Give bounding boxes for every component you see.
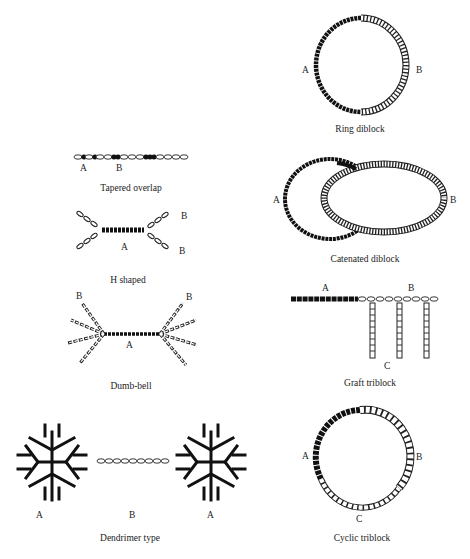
tapered-chain: [74, 155, 188, 159]
label-c: C: [356, 514, 362, 524]
dendron-a-left: [18, 425, 86, 500]
label-a: A: [302, 451, 309, 461]
label-a: A: [322, 283, 329, 293]
label-a-right: A: [207, 510, 214, 520]
label-b: B: [416, 65, 422, 75]
catenated-diblock-diagram: A B Catenated diblock: [273, 159, 456, 264]
tapered-overlap-diagram: A B Tapered overlap: [74, 155, 188, 193]
dendrimer-type-diagram: A B A Dendrimer type: [18, 425, 245, 543]
label-a: A: [126, 340, 133, 350]
arm-b-upper-right: [147, 211, 169, 228]
label-b-top: B: [181, 211, 187, 221]
label-a: A: [273, 195, 280, 205]
block-a-arc: [316, 410, 360, 479]
label-b: B: [416, 452, 422, 462]
label-b: B: [129, 510, 135, 520]
arm-b-lower-left: [76, 232, 98, 249]
arms-b-left: [68, 303, 104, 363]
label-b: B: [408, 283, 414, 293]
label-b-right: B: [186, 292, 192, 302]
linear-block-b: [97, 459, 169, 463]
caption-dendrimer-type: Dendrimer type: [100, 533, 160, 543]
dumb-bell-diagram: B B A Dumb-bell: [68, 291, 197, 391]
copolymer-architectures-figure: A B Tapered overlap A B B H shaped: [0, 0, 470, 559]
label-a: A: [80, 163, 87, 173]
caption-tapered-overlap: Tapered overlap: [100, 183, 162, 193]
caption-dumb-bell: Dumb-bell: [110, 381, 152, 391]
ring-diblock-diagram: A B Ring diblock: [302, 18, 422, 134]
h-shaped-diagram: A B B H shaped: [76, 210, 187, 285]
label-c: C: [384, 361, 390, 371]
caption-graft-triblock: Graft triblock: [344, 378, 396, 388]
label-b: B: [450, 195, 456, 205]
block-b-arc: [361, 18, 406, 112]
graft-triblock-diagram: A B C Graft triblock: [291, 283, 438, 388]
graft-chains-c: [370, 303, 429, 358]
block-b-arc: [360, 410, 410, 488]
label-b-left: B: [76, 291, 82, 301]
arm-b-upper-left: [76, 210, 98, 227]
cyclic-triblock-diagram: A B C Cyclic triblock: [302, 410, 422, 543]
block-a-arc: [316, 18, 361, 112]
label-a-left: A: [36, 510, 43, 520]
label-b-bottom: B: [179, 246, 185, 256]
caption-h-shaped: H shaped: [110, 275, 146, 285]
arm-b-lower-right: [147, 232, 169, 249]
label-a: A: [302, 65, 309, 75]
ring-b: [324, 164, 444, 232]
dendron-a-right: [177, 425, 245, 500]
label-a: A: [121, 242, 128, 252]
backbone-block-b: [358, 297, 438, 301]
label-b: B: [116, 163, 122, 173]
caption-ring-diblock: Ring diblock: [335, 124, 385, 134]
caption-catenated-diblock: Catenated diblock: [331, 254, 400, 264]
caption-cyclic-triblock: Cyclic triblock: [334, 533, 391, 543]
